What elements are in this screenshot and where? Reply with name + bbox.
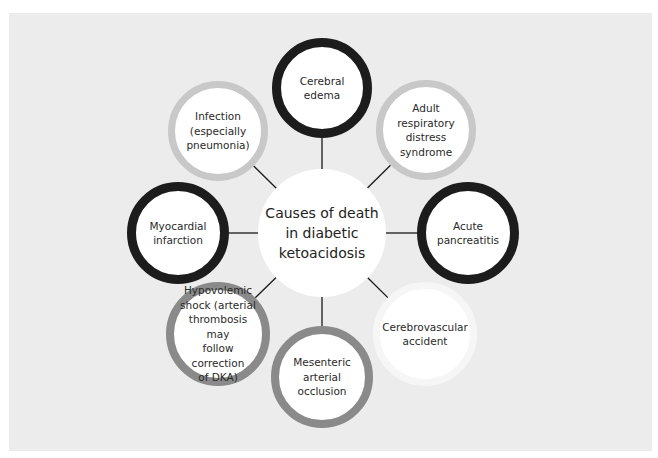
- node-label: Adult respiratory distress syndrome: [391, 101, 460, 159]
- node-label: Myocardial infarction: [144, 219, 213, 248]
- center-hub: Causes of death in diabetic ketoacidosis: [258, 169, 386, 297]
- node-label: Mesenteric arterial occlusion: [287, 355, 357, 399]
- connector-infection: [254, 166, 277, 188]
- node-label: Infection (especially pneumonia): [180, 109, 255, 153]
- node-label: Acute pancreatitis: [431, 219, 505, 248]
- node-mesenteric-arterial-occlusion: Mesenteric arterial occlusion: [271, 326, 373, 428]
- center-hub-label: Causes of death in diabetic ketoacidosis: [259, 203, 384, 263]
- node-label: Cerebrovascular accident: [376, 320, 474, 349]
- node-cerebral-edema: Cerebral edema: [272, 38, 372, 138]
- node-acute-pancreatitis: Acute pancreatitis: [417, 182, 519, 284]
- node-adult-respiratory-distress-syndrome: Adult respiratory distress syndrome: [376, 80, 476, 180]
- node-hypovolemic-shock: Hypovolemic shock (arterial thrombosis m…: [166, 282, 270, 386]
- connector-adult-respiratory-distress-syndrome: [367, 165, 390, 188]
- node-infection: Infection (especially pneumonia): [168, 81, 268, 181]
- connector-cerebrovascular-accident: [368, 278, 388, 298]
- node-myocardial-infarction: Myocardial infarction: [127, 182, 229, 284]
- node-cerebrovascular-accident: Cerebrovascular accident: [373, 282, 477, 386]
- node-label: Hypovolemic shock (arterial thrombosis m…: [174, 283, 262, 385]
- node-label: Cerebral edema: [294, 74, 351, 103]
